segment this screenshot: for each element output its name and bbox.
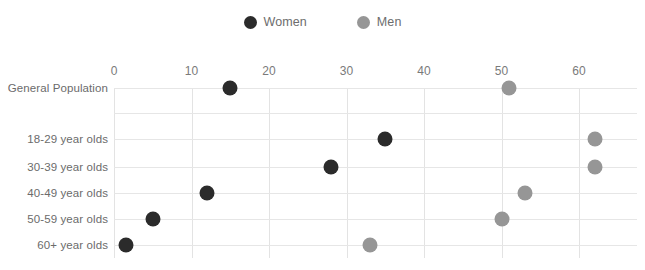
data-point-men[interactable]: [502, 81, 517, 96]
data-point-women[interactable]: [145, 212, 160, 227]
data-point-women[interactable]: [118, 238, 133, 253]
x-tick-label: 50: [495, 64, 508, 78]
circle-marker-icon: [244, 16, 257, 29]
y-axis-label: 40-49 year olds: [27, 187, 108, 199]
data-point-women[interactable]: [324, 160, 339, 175]
legend-label: Men: [377, 15, 402, 29]
x-tick-label: 20: [262, 64, 275, 78]
y-axis-label: General Population: [8, 82, 108, 94]
y-gridline: [114, 167, 637, 168]
y-axis-label: 18-29 year olds: [27, 133, 108, 145]
y-gridline: [114, 88, 637, 89]
x-tick-label: 60: [572, 64, 585, 78]
legend-item-women[interactable]: Women: [244, 15, 307, 29]
data-point-men[interactable]: [494, 212, 509, 227]
data-point-women[interactable]: [200, 186, 215, 201]
y-gridline: [114, 219, 637, 220]
x-tick-label: 0: [111, 64, 118, 78]
y-gridline: [114, 113, 637, 114]
x-tick-label: 10: [185, 64, 198, 78]
plot-area: 0102030405060: [114, 88, 637, 258]
data-point-men[interactable]: [517, 186, 532, 201]
legend-item-men[interactable]: Men: [357, 15, 402, 29]
legend-label: Women: [264, 15, 307, 29]
data-point-men[interactable]: [587, 160, 602, 175]
data-point-women[interactable]: [378, 132, 393, 147]
circle-marker-icon: [357, 16, 370, 29]
y-gridline: [114, 139, 637, 140]
y-axis-labels: General Population18-29 year olds30-39 y…: [0, 0, 108, 270]
data-point-men[interactable]: [362, 238, 377, 253]
data-point-women[interactable]: [223, 81, 238, 96]
y-axis-label: 60+ year olds: [37, 239, 108, 251]
x-tick-label: 30: [340, 64, 353, 78]
y-axis-label: 30-39 year olds: [27, 161, 108, 173]
y-gridline: [114, 193, 637, 194]
y-axis-label: 50-59 year olds: [27, 213, 108, 225]
x-tick-label: 40: [417, 64, 430, 78]
data-point-men[interactable]: [587, 132, 602, 147]
